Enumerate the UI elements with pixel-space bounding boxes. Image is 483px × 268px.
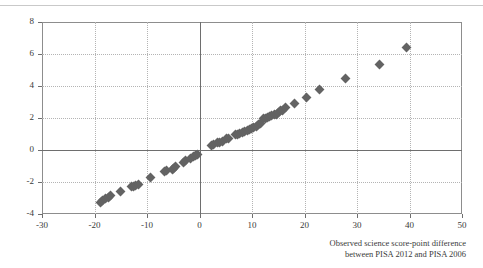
x-tick-mark — [200, 214, 201, 218]
gridline-vertical — [147, 22, 148, 214]
x-tick-mark — [357, 214, 358, 218]
y-tick-mark — [38, 54, 42, 55]
x-tick-label: -10 — [127, 221, 167, 230]
y-tick-label: -4 — [8, 209, 34, 218]
x-tick-mark — [462, 214, 463, 218]
x-tick-mark — [410, 214, 411, 218]
y-tick-mark — [38, 86, 42, 87]
x-tick-label: 50 — [442, 221, 482, 230]
x-tick-mark — [95, 214, 96, 218]
plot-area — [42, 22, 462, 214]
data-point-marker — [301, 92, 311, 102]
data-point-marker — [374, 59, 384, 69]
x-tick-label: 30 — [337, 221, 377, 230]
y-tick-mark — [38, 22, 42, 23]
gridline-vertical — [252, 22, 253, 214]
gridline-vertical — [95, 22, 96, 214]
y-tick-mark — [38, 182, 42, 183]
gridline-vertical — [357, 22, 358, 214]
x-tick-mark — [42, 214, 43, 218]
x-tick-label: 0 — [180, 221, 220, 230]
y-tick-label: 0 — [8, 145, 34, 154]
x-axis-title: Observed science score-point difference … — [300, 238, 466, 260]
x-tick-mark — [147, 214, 148, 218]
data-point-marker — [340, 73, 350, 83]
y-tick-label: 6 — [8, 49, 34, 58]
y-tick-label: 4 — [8, 81, 34, 90]
x-tick-label: 20 — [285, 221, 325, 230]
gridline-vertical — [305, 22, 306, 214]
gridline-vertical — [410, 22, 411, 214]
x-tick-mark — [252, 214, 253, 218]
y-tick-label: -2 — [8, 177, 34, 186]
y-tick-mark — [38, 150, 42, 151]
x-axis-title-line-1: Observed science score-point difference — [300, 238, 466, 249]
y-tick-mark — [38, 118, 42, 119]
x-tick-label: 10 — [232, 221, 272, 230]
page-rule-divider — [0, 5, 483, 6]
data-point-marker — [290, 99, 300, 109]
y-tick-label: 8 — [8, 17, 34, 26]
chart-figure: -4-202468 -30-20-1001020304050 Annualise… — [0, 0, 483, 268]
y-tick-label: 2 — [8, 113, 34, 122]
x-tick-label: -30 — [22, 221, 62, 230]
x-tick-label: -20 — [75, 221, 115, 230]
zero-line-vertical — [200, 22, 201, 214]
x-tick-mark — [305, 214, 306, 218]
data-point-marker — [116, 187, 126, 197]
x-axis-title-line-2: between PISA 2012 and PISA 2006 — [300, 249, 466, 260]
x-tick-label: 40 — [390, 221, 430, 230]
